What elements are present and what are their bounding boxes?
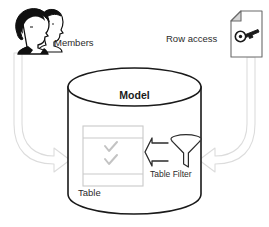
label-table: Table: [78, 188, 101, 198]
table-grid-icon: [83, 126, 143, 186]
connector-rowaccess-to-model: [199, 57, 255, 172]
label-table-filter: Table Filter: [150, 170, 192, 179]
document-key-icon: [231, 11, 262, 57]
label-model: Model: [0, 90, 269, 101]
label-members: Members: [54, 38, 94, 48]
diagram-canvas: Members Row access Model Table Table Fil…: [0, 0, 269, 227]
diagram-graphics: [0, 0, 269, 227]
connector-members-to-model: [14, 53, 70, 172]
label-row-access: Row access: [166, 34, 217, 44]
